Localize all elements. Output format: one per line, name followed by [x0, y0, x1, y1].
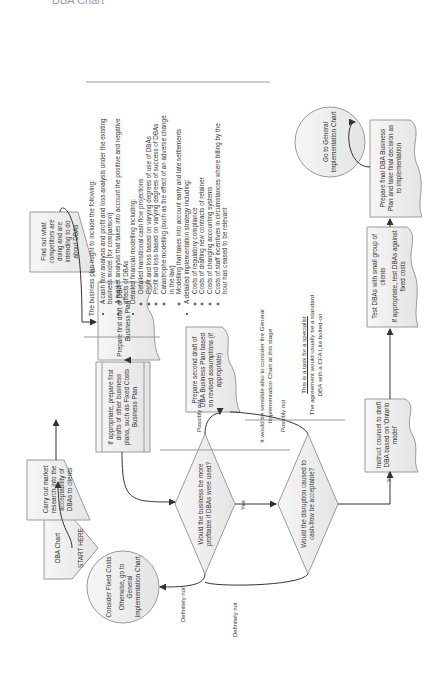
- sub-list-item: Costs of changing accounting systems: [206, 111, 214, 294]
- sub-list-item: Costs of staff incentives in circumstanc…: [214, 111, 229, 294]
- list-item: A cash flow analysis and profit and loss…: [99, 111, 114, 304]
- start-node: DBA Chart: [44, 517, 72, 579]
- sub-list-item: Detailed transitional cash flow projecti…: [137, 111, 145, 294]
- sub-list-item: Costs of drafting new contracts of retai…: [198, 111, 206, 294]
- list-item: A detailed implementation strategy inclu…: [183, 111, 229, 304]
- other-plans-node: If appropriate, prepare first drafts of …: [104, 366, 142, 448]
- decision-disruption-node: Would the disruption caused to cash-flow…: [293, 454, 323, 554]
- list-item: Detailed financial modelling including: …: [129, 111, 183, 304]
- sub-list-item: Profit and loss based on varying degrees…: [145, 111, 153, 294]
- final-plan-node: Prepare final DBA Business Plan and take…: [372, 122, 410, 214]
- flowchart-canvas: DBA Chart START HERE Carry out market re…: [0, 0, 438, 682]
- business-plan-lead: The business plan ought to include the f…: [88, 111, 96, 316]
- note-specialist-title: This is a task for a specialist: [300, 290, 308, 420]
- edge-label-possibly-not-1: Possibly not: [196, 400, 202, 432]
- note-consider-general: It would be sensible also to consider th…: [258, 306, 274, 446]
- edge-label-possibly-not-2: Possibly not: [280, 400, 286, 432]
- test-dbas-node: Test DBAs with small group of clients If…: [368, 229, 410, 324]
- fixed-costs-node: Consider Fixed Costs Otherwise, go to Ge…: [93, 554, 153, 620]
- market-research-node: Carry out market research into the accep…: [30, 462, 85, 517]
- business-plan-list: The business plan ought to include the f…: [88, 111, 229, 316]
- competitors-node: Find out what competitors are doing and …: [32, 214, 87, 269]
- decision-profitable-node: Would the business be more profitable if…: [190, 454, 220, 554]
- note-specialist: This is a task for a specialist The agre…: [300, 290, 324, 420]
- sub-list-item: Modelling that takes into account early …: [175, 111, 183, 294]
- edge-label-definitely-not-2: Definitely not: [232, 602, 238, 637]
- note-specialist-body: The agreement would usually be a standar…: [308, 290, 324, 420]
- go-general-node: Go to General Implementation Chart: [310, 110, 350, 174]
- instruct-counsel-node: Instruct counsel to draft DBA based on '…: [368, 400, 406, 470]
- start-sub: START HERE: [74, 517, 88, 579]
- start-title: DBA Chart: [54, 533, 62, 563]
- edge-label-definitely-not-1: Definitely not: [180, 587, 186, 622]
- test-dbas-line1: Test DBAs with small group of clients: [371, 229, 387, 324]
- list-item: A market analysis that takes into accoun…: [114, 111, 129, 304]
- sub-list-item: Catastrophe modelling (such as the effec…: [160, 111, 175, 294]
- fixed-costs-line2: Otherwise, go to General Implementation …: [118, 554, 142, 620]
- edge-label-yes-1: Yes: [240, 500, 246, 510]
- second-draft-node: Prepare second draft of DBA Business Pla…: [188, 330, 226, 410]
- fixed-costs-line1: Consider Fixed Costs: [105, 556, 113, 617]
- sub-list-item: Profit and loss based on varying degrees…: [152, 111, 160, 294]
- test-dbas-line2: If appropriate, test DBAs against fixed …: [391, 229, 407, 324]
- sub-list-item: Costs of regulatory compliance: [191, 111, 199, 294]
- edge-label-yes-2: Yes: [386, 472, 392, 482]
